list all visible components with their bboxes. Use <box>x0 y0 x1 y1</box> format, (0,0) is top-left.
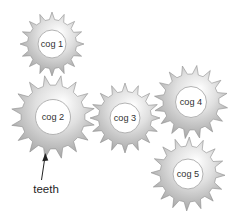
cog-1: cog 1 <box>20 12 84 76</box>
gear-diagram: cog 1cog 2cog 3cog 4cog 5 teeth <box>0 0 240 219</box>
cog-label: cog 4 <box>180 97 202 107</box>
cog-label: cog 1 <box>41 39 63 49</box>
cog-2: cog 2 <box>12 76 94 158</box>
cog-label: cog 3 <box>114 113 136 123</box>
teeth-label: teeth <box>33 183 59 195</box>
cog-4: cog 4 <box>155 66 228 139</box>
gear-diagram-canvas: cog 1cog 2cog 3cog 4cog 5 teeth <box>0 0 240 219</box>
teeth-arrow-line <box>42 160 45 180</box>
teeth-annotation: teeth <box>33 153 59 195</box>
cog-label: cog 5 <box>177 169 199 179</box>
gears-layer: cog 1cog 2cog 3cog 4cog 5 <box>12 12 228 211</box>
cog-3: cog 3 <box>90 83 160 153</box>
cog-5: cog 5 <box>151 137 225 211</box>
cog-label: cog 2 <box>42 112 64 122</box>
